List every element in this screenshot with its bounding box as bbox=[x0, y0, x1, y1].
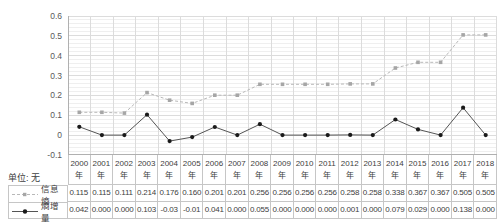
table-value-cell: 0.201 bbox=[226, 185, 249, 202]
year-header-cell: 2004年 bbox=[158, 155, 181, 185]
y-axis-tick-label: 0.1 bbox=[36, 110, 62, 120]
entropy-chart-with-data-table: 0.60.50.40.30.20.10-0.1 单位: 无 2000年2001年… bbox=[0, 0, 503, 223]
y-axis-tick-label: -0.1 bbox=[36, 150, 62, 160]
data-point-marker bbox=[484, 133, 488, 137]
table-value-cell: 0.367 bbox=[407, 185, 430, 202]
data-point-marker bbox=[280, 133, 284, 137]
table-value-cell: 0.055 bbox=[249, 202, 272, 219]
table-value-cell: 0.505 bbox=[474, 185, 497, 202]
table-value-cell: 0.214 bbox=[136, 185, 159, 202]
year-header-cell: 2012年 bbox=[339, 155, 362, 185]
data-point-marker bbox=[484, 33, 488, 37]
table-value-cell: 0.079 bbox=[384, 202, 407, 219]
year-header-cell: 2016年 bbox=[429, 155, 452, 185]
line-chart bbox=[68, 16, 497, 155]
data-point-marker bbox=[123, 111, 127, 115]
data-point-marker bbox=[236, 93, 240, 97]
data-point-marker bbox=[348, 133, 352, 137]
table-value-cell: 0.041 bbox=[203, 202, 226, 219]
table-value-cell: 0.111 bbox=[113, 185, 136, 202]
data-point-marker bbox=[303, 83, 307, 87]
table-value-cell: 0.000 bbox=[113, 202, 136, 219]
year-header-cell: 2000年 bbox=[68, 155, 91, 185]
table-value-cell: 0.000 bbox=[474, 202, 497, 219]
year-header-cell: 2002年 bbox=[113, 155, 136, 185]
table-value-cell: 0.029 bbox=[407, 202, 430, 219]
year-header-cell: 2005年 bbox=[181, 155, 204, 185]
data-point-marker bbox=[213, 93, 217, 97]
data-point-marker bbox=[461, 106, 465, 110]
data-point-marker bbox=[303, 133, 307, 137]
table-value-cell: 0.367 bbox=[429, 185, 452, 202]
data-point-marker bbox=[190, 135, 194, 139]
table-value-cell: 0.000 bbox=[294, 202, 317, 219]
data-point-marker bbox=[348, 82, 352, 86]
y-axis-tick-label: 0.3 bbox=[36, 71, 62, 81]
table-value-cell: -0.03 bbox=[158, 202, 181, 219]
table-value-cell: 0.176 bbox=[158, 185, 181, 202]
data-point-marker bbox=[439, 133, 443, 137]
table-value-cell: 0.000 bbox=[91, 202, 114, 219]
year-header-cell: 2011年 bbox=[316, 155, 339, 185]
data-point-marker bbox=[371, 133, 375, 137]
legend: 信息熵 熵增量 bbox=[8, 185, 68, 219]
year-header-cell: 2009年 bbox=[271, 155, 294, 185]
y-axis-tick-label: 0 bbox=[36, 130, 62, 140]
table-value-cell: 0.000 bbox=[316, 202, 339, 219]
data-point-marker bbox=[100, 133, 104, 137]
series-line-信息熵 bbox=[79, 35, 485, 113]
data-point-marker bbox=[100, 111, 104, 115]
table-value-cell: 0.256 bbox=[249, 185, 272, 202]
table-value-cell: 0.000 bbox=[429, 202, 452, 219]
legend-label: 熵增量 bbox=[41, 199, 67, 223]
table-value-cell: 0.505 bbox=[452, 185, 475, 202]
year-header-cell: 2018年 bbox=[474, 155, 497, 185]
table-value-cell: -0.01 bbox=[181, 202, 204, 219]
table-value-cell: 0.103 bbox=[136, 202, 159, 219]
data-point-marker bbox=[213, 125, 217, 129]
data-point-marker bbox=[258, 122, 262, 126]
plot-area bbox=[68, 16, 497, 155]
table-value-cell: 0.256 bbox=[294, 185, 317, 202]
data-point-marker bbox=[168, 139, 172, 143]
year-header-cell: 2015年 bbox=[407, 155, 430, 185]
data-point-marker bbox=[77, 125, 81, 129]
data-point-marker bbox=[190, 102, 194, 106]
table-value-cell: 0.256 bbox=[316, 185, 339, 202]
table-value-cell: 0.000 bbox=[271, 202, 294, 219]
table-value-cell: 0.000 bbox=[362, 202, 385, 219]
year-header-cell: 2001年 bbox=[91, 155, 114, 185]
year-header-cell: 2014年 bbox=[384, 155, 407, 185]
table-value-cell: 0.115 bbox=[68, 185, 91, 202]
table-value-cell: 0.258 bbox=[339, 185, 362, 202]
data-point-marker bbox=[326, 83, 330, 87]
table-year-header-row: 2000年2001年2002年2003年2004年2005年2006年2007年… bbox=[68, 155, 497, 185]
data-point-marker bbox=[416, 61, 420, 65]
year-header-cell: 2008年 bbox=[249, 155, 272, 185]
table-value-cell: 0.001 bbox=[339, 202, 362, 219]
year-header-cell: 2007年 bbox=[226, 155, 249, 185]
data-point-marker bbox=[326, 133, 330, 137]
table-value-cell: 0.138 bbox=[452, 202, 475, 219]
data-point-marker bbox=[258, 83, 262, 87]
data-point-marker bbox=[393, 117, 397, 121]
data-point-marker bbox=[394, 66, 398, 70]
data-point-marker bbox=[145, 91, 149, 95]
table-value-cell: 0.338 bbox=[384, 185, 407, 202]
table-value-cell: 0.258 bbox=[362, 185, 385, 202]
data-point-marker bbox=[122, 133, 126, 137]
table-value-cell: 0.042 bbox=[68, 202, 91, 219]
legend-item-entropy-increment: 熵增量 bbox=[9, 203, 67, 219]
table-value-cell: 0.256 bbox=[271, 185, 294, 202]
y-axis-tick-label: 0.6 bbox=[36, 11, 62, 21]
data-point-marker bbox=[168, 98, 172, 102]
black-line-circle-marker-icon bbox=[11, 207, 39, 216]
data-point-marker bbox=[78, 111, 82, 115]
data-point-marker bbox=[235, 133, 239, 137]
table-row-entropy-increment: 0.0420.0000.0000.103-0.03-0.010.0410.000… bbox=[68, 202, 497, 219]
data-point-marker bbox=[281, 83, 285, 87]
y-axis-tick-label: 0.5 bbox=[36, 31, 62, 41]
y-axis-tick-label: 0.2 bbox=[36, 90, 62, 100]
table-value-cell: 0.000 bbox=[226, 202, 249, 219]
table-value-cell: 0.115 bbox=[91, 185, 114, 202]
